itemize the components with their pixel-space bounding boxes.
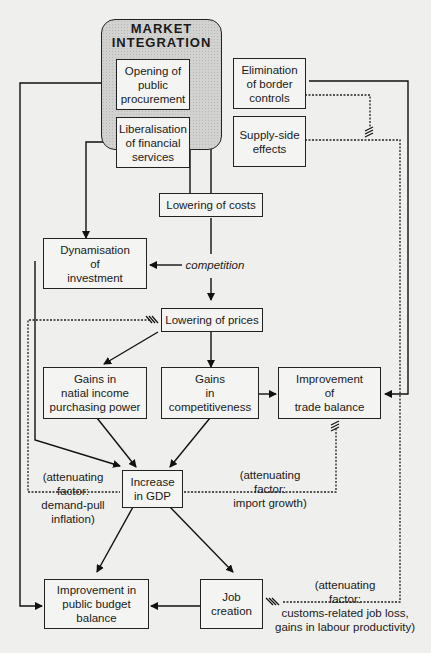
label-competition: competition [180, 258, 250, 272]
node-elimination-border-controls: Elimination of border controls [233, 58, 306, 109]
node-improvement-public-budget: Improvement in public budget balance [44, 579, 149, 629]
node-liberalisation-financial-services: Liberalisation of financial services [116, 117, 190, 168]
node-gains-national-income: Gains in natial income purchasing power [43, 367, 147, 419]
node-dynamisation-of-investment: Dynamisation of investment [43, 238, 147, 289]
node-gains-competitiveness: Gains in competitiveness [161, 367, 259, 419]
annotation-import-growth: (attenuating factor: import growth) [220, 468, 320, 510]
node-opening-public-procurement: Opening of public procurement [116, 59, 190, 110]
market-integration-title: MARKET INTEGRATION [101, 22, 222, 50]
annotation-demand-pull-inflation: (attenuating factor: demand-pull inflati… [33, 470, 113, 526]
node-lowering-of-prices: Lowering of prices [161, 308, 263, 332]
node-supply-side-effects: Supply-side effects [233, 116, 306, 167]
annotation-job-loss: (attenuating factor: customs-related job… [270, 578, 420, 634]
node-job-creation: Job creation [200, 579, 263, 629]
node-increase-in-gdp: Increase in GDP [122, 470, 183, 508]
node-improvement-trade-balance: Improvement of trade balance [278, 367, 381, 419]
node-lowering-of-costs: Lowering of costs [159, 193, 263, 217]
